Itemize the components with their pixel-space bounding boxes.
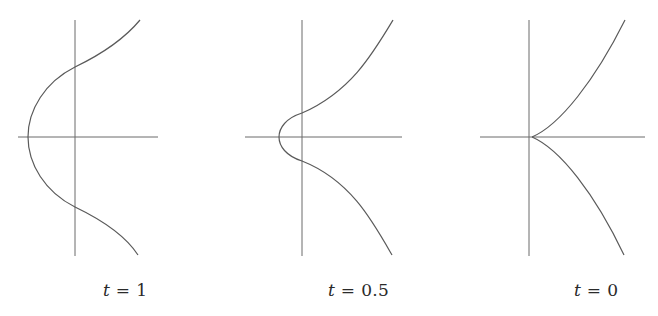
curve-t0-lower-branch [532, 137, 624, 255]
label-value: 0 [607, 280, 618, 300]
label-variable: t [103, 280, 110, 300]
label-variable: t [574, 280, 581, 300]
label-equals: = [341, 280, 356, 300]
label-equals: = [587, 280, 602, 300]
panel-t1 [18, 20, 158, 256]
curve-family-figure [0, 0, 658, 316]
label-value: 0.5 [361, 280, 389, 300]
label-t05: t = 0.5 [328, 280, 389, 300]
panel-t05 [245, 20, 402, 256]
label-variable: t [328, 280, 335, 300]
label-t1: t = 1 [103, 280, 147, 300]
curve-t0-upper-branch [532, 20, 625, 137]
label-t0: t = 0 [574, 280, 618, 300]
label-value: 1 [136, 280, 147, 300]
label-equals: = [116, 280, 131, 300]
panel-t0 [480, 20, 645, 256]
